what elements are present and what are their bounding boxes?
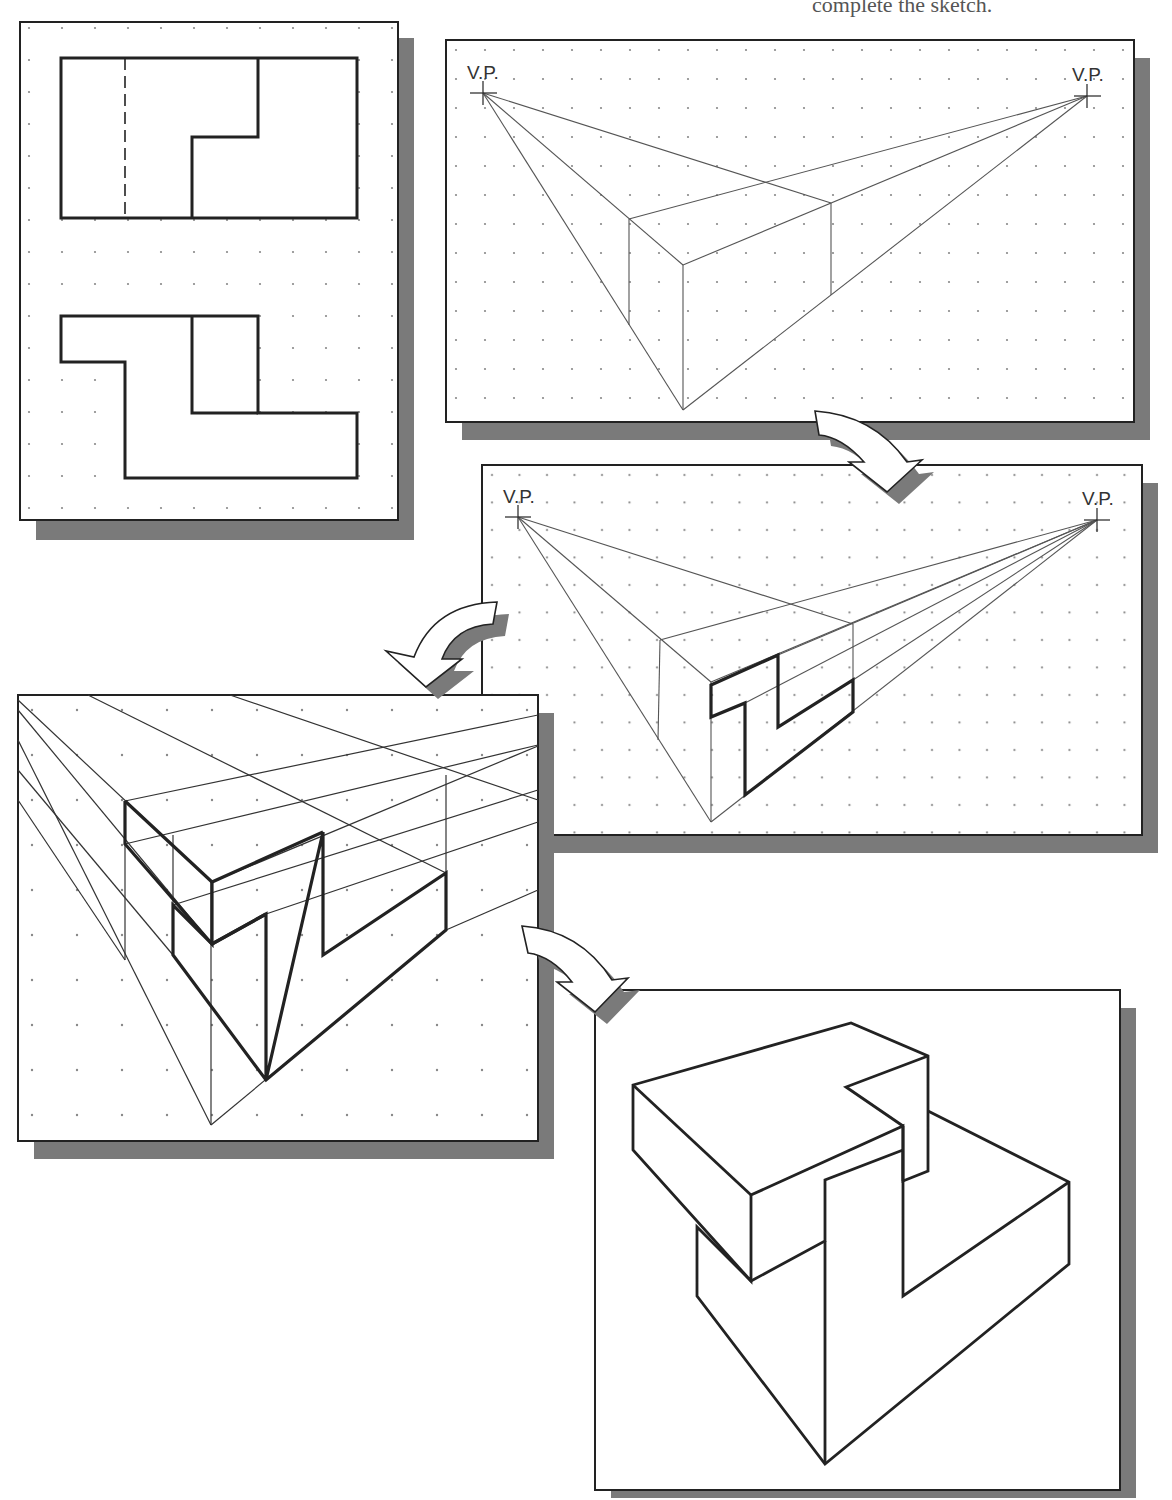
panel-step-2-front-face: V.P. V.P. [482, 465, 1158, 853]
dot-grid [446, 40, 1134, 422]
vp-left-label: V.P. [467, 62, 499, 83]
panel-orthographic-views [20, 22, 414, 540]
panel-step-1-box: V.P. V.P. [446, 40, 1150, 440]
panel-step-4-final [595, 990, 1136, 1498]
top-view [61, 58, 357, 218]
vp-right-label: V.P. [1072, 64, 1104, 85]
dot-grid [482, 465, 1142, 835]
panel-step-3-enlarged [18, 695, 554, 1159]
diagram-canvas: V.P. V.P. V.P. V.P. [0, 0, 1172, 1500]
dot-grid [18, 695, 538, 1141]
vp-right-label: V.P. [1082, 488, 1114, 509]
vp-left-label: V.P. [503, 486, 535, 507]
